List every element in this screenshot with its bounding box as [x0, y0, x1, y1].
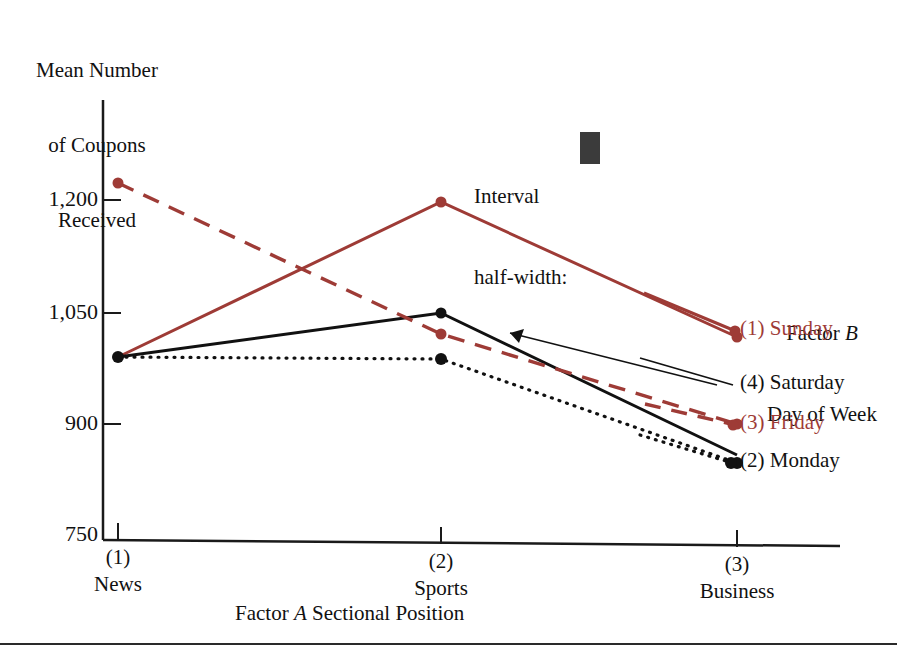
x-tick-number-2: (2) — [396, 549, 486, 574]
legend-sample-sunday — [644, 293, 741, 337]
legend-item-saturday[interactable]: (4) Saturday — [740, 370, 844, 395]
series-saturday — [118, 308, 737, 456]
legend-item-sunday[interactable]: (1) Sunday — [740, 316, 833, 341]
x-axis-title-prefix: Factor — [235, 601, 294, 625]
series-sunday — [118, 197, 743, 358]
legend-title-factor-letter: B — [845, 321, 858, 345]
series-friday — [113, 178, 743, 430]
interval-halfwidth-line-1: Interval — [474, 183, 567, 210]
y-tick-label-900: 900 — [6, 410, 98, 436]
axis-lines — [103, 100, 840, 546]
y-tick-label-1050: 1,050 — [6, 299, 98, 325]
x-axis-title: Factor A Sectional Position — [235, 601, 464, 626]
legend-sample-saturday — [640, 358, 733, 385]
x-tick-label-news: News — [53, 572, 183, 597]
y-axis-title-line-2: of Coupons — [22, 133, 172, 158]
legend-sample-monday — [640, 435, 737, 469]
x-tick-number-1: (1) — [73, 545, 163, 570]
x-tick-label-business: Business — [672, 579, 802, 604]
y-tick-label-1200: 1,200 — [6, 186, 98, 212]
x-axis-title-factor-letter: A — [294, 601, 307, 625]
legend-item-friday[interactable]: (3) Friday — [740, 410, 825, 435]
x-axis-title-suffix: Sectional Position — [307, 601, 465, 625]
interval-halfwidth-annotation: Interval half-width: — [474, 129, 567, 345]
x-tick-label-sports: Sports — [376, 576, 506, 601]
interval-halfwidth-swatch — [580, 132, 600, 164]
y-tick-label-750: 750 — [6, 521, 98, 547]
x-tick-number-3: (3) — [692, 552, 782, 577]
legend-item-monday[interactable]: (2) Monday — [740, 448, 840, 473]
page-bottom-rule — [0, 643, 897, 645]
interaction-plot-figure: Mean Number of Coupons Received 1,200 1,… — [0, 0, 897, 662]
y-axis-title-line-1: Mean Number — [22, 58, 172, 83]
y-axis-title: Mean Number of Coupons Received — [22, 8, 172, 283]
series-monday — [112, 351, 743, 469]
interval-halfwidth-line-2: half-width: — [474, 264, 567, 291]
